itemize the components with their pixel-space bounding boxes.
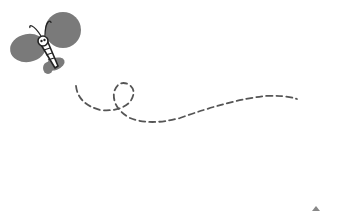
corner-mark-icon (312, 206, 320, 211)
butterfly-icon (8, 12, 81, 74)
flight-path (76, 83, 297, 122)
butterfly-illustration (0, 0, 354, 211)
illustration-canvas (0, 0, 354, 211)
